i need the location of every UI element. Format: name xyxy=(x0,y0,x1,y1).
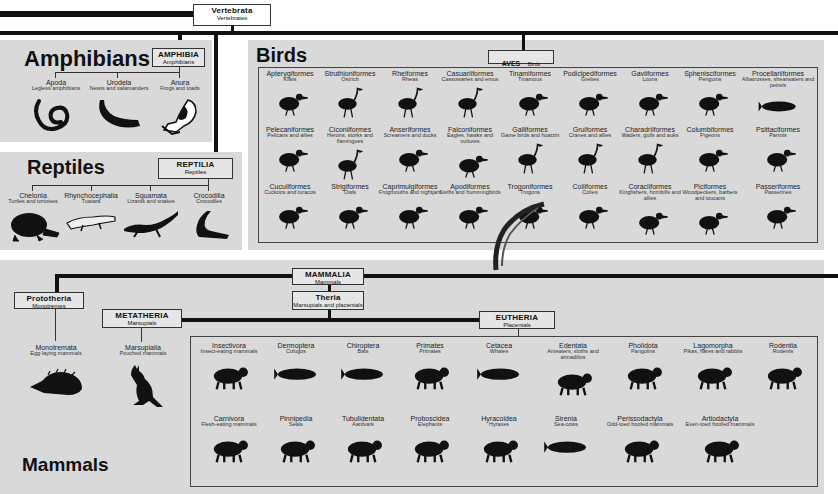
dugong-icon xyxy=(543,432,589,468)
oystercatcher-icon xyxy=(630,143,670,175)
bird-order-caprimulgiformes[interactable]: CaprimulgiformesFrogmouths and nightjars xyxy=(378,183,442,232)
order-common: Lizards and snakes xyxy=(118,199,184,205)
penguin-icon xyxy=(690,87,730,119)
bird-order-columbiformes[interactable]: ColumbiformesPigeons xyxy=(678,126,742,175)
bird-order-coraciiformes[interactable]: CoraciiformesKingfishers, hornbills and … xyxy=(618,183,682,238)
mammal-order-proboscidea[interactable]: ProboscideaElephants xyxy=(397,415,463,468)
order-common: Odd-toed hoofed mammals xyxy=(600,422,680,428)
root-line-main xyxy=(0,31,838,35)
bird-order-podicipediformes[interactable]: PodicipediformesGrebes xyxy=(558,70,622,119)
theria-box[interactable]: Theria Marsupials and placentals xyxy=(292,291,364,310)
mammal-order-perissodactyla[interactable]: PerissodactylaOdd-toed hoofed mammals xyxy=(600,415,680,468)
bird-order-piciformes[interactable]: PiciformesWoodpeckers, barbets and touca… xyxy=(678,183,742,238)
order-common: Seals xyxy=(263,422,329,428)
bird-order-procellariiformes[interactable]: ProcellariiformesAlbatrosses, shearwater… xyxy=(740,70,816,125)
mammal-order-sirenia[interactable]: SireniaSea-cows xyxy=(533,415,599,468)
order-common: Pangolins xyxy=(610,349,676,355)
metatheria-box[interactable]: METATHERIA Marsupials xyxy=(102,309,182,328)
reptilia-title: REPTILIA xyxy=(159,161,232,169)
amphibia-tick xyxy=(117,72,118,78)
order-urodela[interactable]: Urodela Newts and salamanders xyxy=(82,79,156,136)
bird-order-galliformes[interactable]: GalliformesGame birds and hoatzin xyxy=(498,126,562,175)
mammal-order-artiodactyla[interactable]: ArtiodactylaEven-toed hoofed mammals xyxy=(680,415,760,468)
reptilia-box[interactable]: REPTILIA Reptiles xyxy=(158,158,233,179)
mammal-order-carnivora[interactable]: CarnivoraFlesh-eating mammals xyxy=(196,415,262,468)
mammal-order-primates[interactable]: PrimatesPrimates xyxy=(397,342,463,395)
order-common: Pikas, hares and rabbits xyxy=(680,349,746,355)
chipmunk-icon xyxy=(760,359,806,395)
albatross-icon xyxy=(758,93,798,125)
order-rhynchocephalia[interactable]: Rhynchocephalia Tuatara xyxy=(58,192,124,233)
order-common: Egg-laying mammals xyxy=(12,351,100,357)
mammal-order-lagomorpha[interactable]: LagomorphaPikas, hares and rabbits xyxy=(680,342,746,395)
theria-title: Theria xyxy=(293,294,363,302)
bird-order-tinamiformes[interactable]: TinamiformesTinamous xyxy=(498,70,562,119)
mammal-order-chiroptera[interactable]: ChiropteraBats xyxy=(330,342,396,395)
order-common: Kiwis xyxy=(258,77,322,83)
metatheria-stem xyxy=(141,328,142,342)
vertebrata-box[interactable]: Vertebrata Vertebrates xyxy=(193,4,271,26)
mammal-order-edentata[interactable]: EdentataAnteaters, sloths and armadillos xyxy=(540,342,606,401)
bird-order-charadriiformes[interactable]: CharadriiformesWaders, gulls and auks xyxy=(618,126,682,175)
order-common: Flesh-eating mammals xyxy=(196,422,262,428)
aves-box[interactable]: AVES Birds xyxy=(488,50,554,64)
order-marsupialia[interactable]: Marsupialia Pouched mammals xyxy=(100,344,186,411)
ostrich-icon xyxy=(330,87,370,119)
bird-order-psittaciformes[interactable]: PsittaciformesParrots xyxy=(740,126,816,175)
theria-subtitle: Marsupials and placentals xyxy=(293,302,363,308)
order-anura[interactable]: Anura Frogs and toads xyxy=(150,79,210,138)
reptilia-drop xyxy=(214,33,218,158)
amphibia-tick xyxy=(55,72,56,78)
order-crocodilia[interactable]: Crocodilia Crocodiles xyxy=(178,192,240,241)
mammal-order-pinnipedia[interactable]: PinnipediaSeals xyxy=(263,415,329,468)
mammal-order-rodentia[interactable]: RodentiaRodents xyxy=(750,342,816,395)
reptiles-panel: Reptiles REPTILIA Reptiles Chelonia Turt… xyxy=(0,152,242,250)
order-common: Insect-eating mammals xyxy=(196,349,262,355)
bird-order-coliiformes[interactable]: ColiiformesColies xyxy=(558,183,622,232)
eutheria-box[interactable]: EUTHERIA Placentals xyxy=(479,311,555,329)
bird-order-gruiformes[interactable]: GruiformesCranes and allies xyxy=(558,126,622,175)
bird-order-passeriformes[interactable]: PasseriformesPasserines xyxy=(740,183,816,232)
order-common: Parrots xyxy=(740,133,816,139)
bird-order-struthioniformes[interactable]: StruthioniformesOstrich xyxy=(318,70,382,119)
order-common: Pelicans and allies xyxy=(258,133,322,139)
mammal-order-hyracoidea[interactable]: HyracoideaHyraxes xyxy=(466,415,532,468)
bird-order-anseriformes[interactable]: AnseriformesScreamers and ducks xyxy=(378,126,442,175)
prototheria-subtitle: Monotremes xyxy=(15,303,83,309)
mammal-order-dermoptera[interactable]: DermopteraColugos xyxy=(263,342,329,395)
tinamou-icon xyxy=(510,87,550,119)
bird-order-ciconiiformes[interactable]: CiconiiformesHerons, storks and flamingo… xyxy=(318,126,382,181)
order-squamata[interactable]: Squamata Lizards and snakes xyxy=(118,192,184,239)
frog-icon xyxy=(158,96,202,138)
cassowary-icon xyxy=(450,87,490,119)
order-chelonia[interactable]: Chelonia Turtles and tortoises xyxy=(0,192,66,243)
amphibians-heading: Amphibians xyxy=(24,46,150,72)
reptilia-tick xyxy=(208,179,209,191)
bat-icon xyxy=(340,359,386,395)
mammal-order-cetacea[interactable]: CetaceaWhales xyxy=(466,342,532,395)
mammal-order-tubulidentata[interactable]: TubulidentataAardvark xyxy=(330,415,396,468)
amphibia-box[interactable]: AMPHIBIA Amphibians xyxy=(152,48,205,67)
bird-order-casuariiformes[interactable]: CasuariiformesCassowaries and emus xyxy=(438,70,502,119)
vertebrata-subtitle: Vertebrates xyxy=(194,15,270,21)
mammal-order-pholidota[interactable]: PholidotaPangolins xyxy=(610,342,676,395)
rabbit-icon xyxy=(690,359,736,395)
aves-stem xyxy=(522,33,525,50)
prototheria-box[interactable]: Prototheria Monotremes xyxy=(14,292,84,309)
jackal-icon xyxy=(206,432,252,468)
mammal-order-insectivora[interactable]: InsectivoraInsect-eating mammals xyxy=(196,342,262,395)
goose-icon xyxy=(390,143,430,175)
mammalia-box[interactable]: MAMMALIA Mammals xyxy=(292,268,364,285)
bird-order-strigiformes[interactable]: StrigiformesOwls xyxy=(318,183,382,232)
bird-order-sphenisciformes[interactable]: SphenisciformesPenguins xyxy=(678,70,742,119)
bird-order-apterygiformes[interactable]: ApterygiformesKiwis xyxy=(258,70,322,119)
bird-order-falconiformes[interactable]: FalconiformesEagles, hawks and vultures xyxy=(438,126,502,181)
amphibia-title: AMPHIBIA xyxy=(153,51,204,59)
bird-order-pelecaniformes[interactable]: PelecaniformesPelicans and allies xyxy=(258,126,322,175)
bird-order-gaviiformes[interactable]: GaviiformesLoons xyxy=(618,70,682,119)
order-common: Kingfishers, hornbills and allies xyxy=(618,190,682,202)
bird-order-cuculiformes[interactable]: CuculiformesCuckoos and turacos xyxy=(258,183,322,232)
bird-order-rheiformes[interactable]: RheiformesRheas xyxy=(378,70,442,119)
order-common: Owls xyxy=(318,190,382,196)
order-monotremata[interactable]: Monotremata Egg-laying mammals xyxy=(12,344,100,399)
